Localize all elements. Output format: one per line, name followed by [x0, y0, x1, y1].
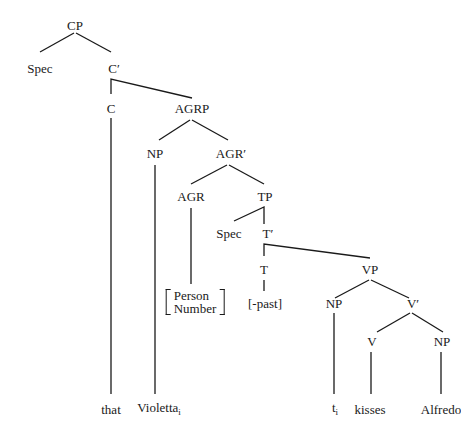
- node-tp: TP: [257, 190, 272, 203]
- branch-agrbar-agr: [191, 165, 227, 184]
- node-c: C: [107, 102, 116, 115]
- leaf-alfredo: Alfredo: [421, 403, 461, 416]
- agr-feature-matrix: Person Number: [166, 289, 225, 315]
- leaf-trace-index: i: [336, 407, 339, 417]
- node-v-bar: V′: [407, 297, 419, 310]
- node-spec-cp: Spec: [27, 62, 52, 75]
- right-bracket: [219, 289, 224, 315]
- branch-agrp-agrbar: [192, 120, 228, 140]
- branch-vbar-np: [412, 313, 443, 332]
- node-np-trace: NP: [326, 297, 343, 310]
- leaf-trace: ti: [332, 401, 338, 417]
- branch-cp-cbar: [76, 33, 111, 52]
- node-c-bar: C′: [108, 62, 120, 75]
- node-vp: VP: [362, 263, 379, 276]
- feature-number: Number: [174, 302, 217, 315]
- leaf-violetta-word: Violetta: [137, 400, 178, 415]
- leaf-violetta-index: i: [178, 407, 181, 417]
- node-spec-tp: Spec: [216, 227, 241, 240]
- node-np-subject: NP: [147, 147, 164, 160]
- node-agr-bar: AGR′: [216, 147, 246, 160]
- branch-agrbar-tp: [229, 165, 264, 184]
- branch-cp-spec: [40, 33, 74, 52]
- node-agrp: AGRP: [175, 102, 210, 115]
- leaf-that: that: [101, 403, 121, 416]
- node-cp: CP: [67, 19, 83, 32]
- node-v: V: [367, 335, 376, 348]
- branch-cbar: [111, 79, 192, 98]
- leaf-kisses: kisses: [354, 403, 385, 416]
- branch-vbar-v: [377, 313, 410, 332]
- leaf-violetta: Violettai: [137, 401, 181, 417]
- branch-vp-vbar: [371, 280, 409, 298]
- branch-agrp-np: [159, 120, 190, 140]
- left-bracket: [166, 289, 171, 315]
- node-agr: AGR: [177, 190, 204, 203]
- node-np-object: NP: [434, 335, 451, 348]
- branch-tbar: [264, 244, 370, 258]
- branch-tp: [234, 207, 264, 224]
- node-t-bar: T′: [263, 227, 274, 240]
- tense-feature: [-past]: [248, 297, 282, 310]
- node-t: T: [260, 263, 268, 276]
